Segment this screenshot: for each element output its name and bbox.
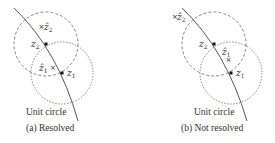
unit-circle-arc [182, 8, 247, 121]
z2-hat-label: ẑ2 [176, 12, 186, 23]
z2-label: z2 [198, 39, 208, 50]
diagram-canvas: × × ẑ2 z2 ẑ1 z1 × × ẑ2 z2 ẑ1 z1 [0, 0, 275, 143]
z2-point [45, 43, 48, 46]
z1-point [230, 72, 233, 75]
z1-label: z1 [235, 68, 245, 79]
z1-hat-label: ẑ1 [38, 63, 48, 74]
z1-point [61, 72, 64, 75]
caption-b: (b) Not resolved [181, 123, 243, 133]
z1-label: z1 [66, 68, 76, 79]
caption-a: (a) Resolved [26, 123, 74, 133]
z1-hat-label: ẑ1 [221, 47, 231, 58]
z1-hat-marker: × [50, 64, 56, 72]
z2-point [213, 43, 216, 46]
panel-b: × × ẑ2 z2 ẑ1 z1 [172, 8, 262, 121]
z2-hat-label: ẑ2 [43, 22, 53, 33]
unit-circle-label-a: Unit circle [26, 107, 66, 117]
panel-a: × × ẑ2 z2 ẑ1 z1 [14, 8, 93, 121]
unit-circle-label-b: Unit circle [194, 107, 234, 117]
z2-label: z2 [30, 39, 40, 50]
